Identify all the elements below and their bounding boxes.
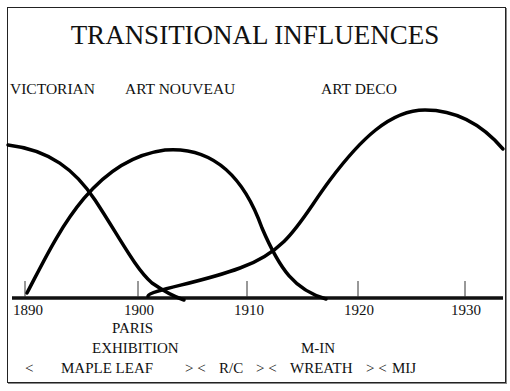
exhibition-label: EXHIBITION [92, 341, 179, 356]
tick-label-1910: 1910 [234, 303, 264, 318]
paris-label: PARIS [112, 321, 153, 336]
tick-label-1930: 1930 [451, 303, 481, 318]
tick-label-1890: 1890 [13, 303, 43, 318]
m-in-label: M-IN [301, 341, 335, 356]
mij-label: MIJ [392, 361, 416, 376]
maple-leaf-label: MAPLE LEAF [61, 361, 153, 376]
rc-label: R/C [219, 361, 243, 376]
wreath-label: WREATH [290, 361, 353, 376]
timeline-plot [0, 0, 510, 391]
separator-1: > < [185, 361, 206, 376]
tick-label-1920: 1920 [344, 303, 374, 318]
curve-art-deco [148, 110, 503, 296]
tick-label-1900: 1900 [124, 303, 154, 318]
x-axis-ticks [25, 281, 465, 297]
separator-2: > < [256, 361, 277, 376]
separator-3: > < [366, 361, 387, 376]
timeline-start-marker: < [25, 361, 33, 376]
